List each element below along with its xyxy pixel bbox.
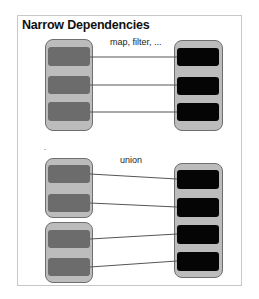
- parent-partition: [48, 102, 90, 121]
- parent-partition: [48, 194, 90, 212]
- union-label: union: [120, 155, 142, 165]
- parent-partition: [48, 165, 90, 183]
- child-partition: [177, 48, 219, 66]
- child-partition: [177, 170, 219, 189]
- child-partition: [177, 252, 219, 271]
- child-partition: [177, 77, 219, 95]
- stray-dot: [44, 149, 46, 150]
- parent-partition: [48, 258, 90, 276]
- parent-partition: [48, 76, 90, 94]
- child-partition: [177, 103, 219, 121]
- parent-partition: [48, 47, 90, 66]
- diagram-title: Narrow Dependencies: [22, 18, 150, 32]
- child-partition: [177, 198, 219, 217]
- parent-partition: [48, 230, 90, 248]
- map-filter-label: map, filter, ...: [110, 37, 162, 47]
- child-partition: [177, 225, 219, 244]
